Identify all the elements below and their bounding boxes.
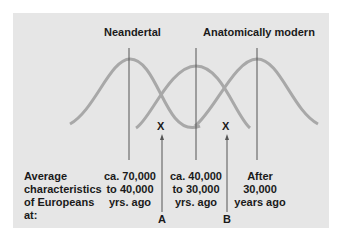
marker-x-a: X: [157, 120, 164, 133]
period-3: After 30,000 years ago: [230, 170, 290, 209]
marker-x-b: X: [222, 120, 229, 133]
modern-label: Anatomically modern: [203, 26, 315, 39]
label-b: B: [223, 213, 231, 226]
period-2: ca. 40,000 to 30,000 yrs. ago: [166, 170, 226, 209]
neandertal-curve: [70, 59, 200, 128]
neandertal-label: Neandertal: [104, 26, 161, 39]
caption: Average characteristics of Europeans at:: [24, 170, 102, 222]
label-a: A: [158, 213, 166, 226]
period-1: ca. 70,000 to 40,000 yrs. ago: [100, 170, 160, 209]
